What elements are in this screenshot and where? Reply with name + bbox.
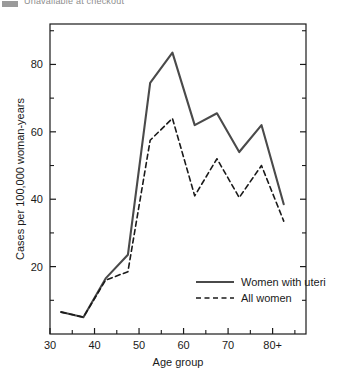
chart-figure: Unavailable at checkout 20406080 3040506…: [0, 0, 339, 379]
x-tick-label: 60: [177, 339, 189, 351]
x-axis-title: Age group: [153, 356, 204, 368]
x-tick-label: 30: [44, 339, 56, 351]
y-tick-label: 40: [31, 193, 43, 205]
header-caption-text: Unavailable at checkout: [24, 0, 124, 6]
line-chart: 20406080 304050607080+ Cases per 100,000…: [0, 0, 339, 379]
legend-label-0: Women with uteri: [241, 276, 326, 288]
y-axis-tick-labels: 20406080: [31, 58, 43, 272]
page-header-strip: Unavailable at checkout: [0, 0, 339, 12]
x-tick-label: 40: [88, 339, 100, 351]
x-tick-label: 70: [222, 339, 234, 351]
legend-label-1: All women: [241, 292, 292, 304]
x-tick-label: 50: [133, 339, 145, 351]
x-axis-tick-labels: 304050607080+: [44, 339, 282, 351]
y-tick-label: 20: [31, 261, 43, 273]
y-tick-label: 60: [31, 126, 43, 138]
y-tick-label: 80: [31, 58, 43, 70]
header-swatch: [2, 1, 18, 7]
x-tick-label: 80+: [263, 339, 282, 351]
y-axis-title: Cases per 100,000 woman-years: [14, 97, 26, 260]
